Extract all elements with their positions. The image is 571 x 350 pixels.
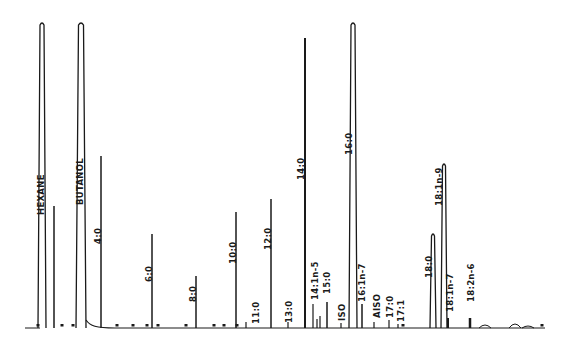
marker [185, 324, 188, 327]
peak-label: 18:1n-9 [434, 167, 444, 206]
peak-label: HEXANE [36, 174, 46, 215]
marker [541, 324, 544, 327]
peak-label: 18:2n-6 [466, 263, 476, 302]
peak-label: 4:0 [93, 228, 103, 244]
peak-label: 6:0 [144, 266, 154, 282]
marker [37, 324, 40, 327]
peak-label: 18:0 [424, 256, 434, 278]
peak-label: BUTANOL [75, 158, 85, 205]
peak-label: 13:0 [284, 301, 294, 323]
peak-label: 12:0 [263, 228, 273, 250]
marker [132, 324, 135, 327]
marker [157, 324, 160, 327]
marker [146, 324, 149, 327]
peak-label: 17:1 [396, 300, 406, 322]
peak-label: 17:0 [385, 296, 395, 318]
peak-label: 14:0 [296, 158, 306, 180]
peak-label: 11:0 [251, 302, 261, 324]
peak-label: 10:0 [228, 242, 238, 264]
peak-label: AISO [372, 294, 382, 318]
marker [236, 324, 239, 327]
marker [213, 324, 216, 327]
peak-label: 16:0 [344, 133, 354, 155]
marker [116, 324, 119, 327]
peak-label: 14:1n-5 [310, 261, 320, 300]
peak-label: 16:1n-7 [357, 263, 367, 302]
chromatogram-plot [0, 0, 571, 350]
marker [402, 324, 405, 327]
marker [72, 324, 75, 327]
peak [349, 23, 357, 328]
marker [61, 324, 64, 327]
peak-label: ISO [337, 304, 347, 321]
peak-label: 8:0 [188, 286, 198, 302]
peak-label: 18:1n-7 [445, 273, 455, 312]
peak-label: 15:0 [322, 272, 332, 294]
peak [430, 234, 436, 328]
marker [223, 324, 226, 327]
